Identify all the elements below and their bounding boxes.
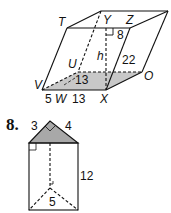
vertex-T: T: [58, 15, 67, 29]
vertex-W: W: [55, 92, 68, 106]
figure-1-labels: T Y Z 8 h 22 U 13 O V 5 W 13 X: [34, 13, 153, 106]
label-13-base: 13: [72, 92, 86, 106]
label-3: 3: [31, 119, 38, 133]
vertex-Y: Y: [103, 13, 112, 27]
label-12: 12: [80, 169, 94, 183]
vertex-Z: Z: [125, 13, 134, 27]
diagram-canvas: T Y Z 8 h 22 U 13 O V 5 W 13 X 8. 3 4 12…: [0, 0, 171, 213]
label-5-bottom: 5: [49, 195, 56, 209]
shaded-base: [42, 72, 142, 90]
label-13-diag: 13: [75, 73, 89, 87]
vertex-O: O: [144, 69, 153, 83]
label-5: 5: [45, 92, 52, 106]
label-22: 22: [122, 53, 136, 67]
label-8: 8: [117, 28, 124, 42]
label-4: 4: [65, 119, 72, 133]
vertex-X: X: [99, 92, 109, 106]
vertex-V: V: [34, 78, 43, 92]
exercise-number: 8.: [6, 115, 19, 134]
label-h: h: [97, 49, 104, 63]
vertex-U: U: [68, 57, 77, 71]
